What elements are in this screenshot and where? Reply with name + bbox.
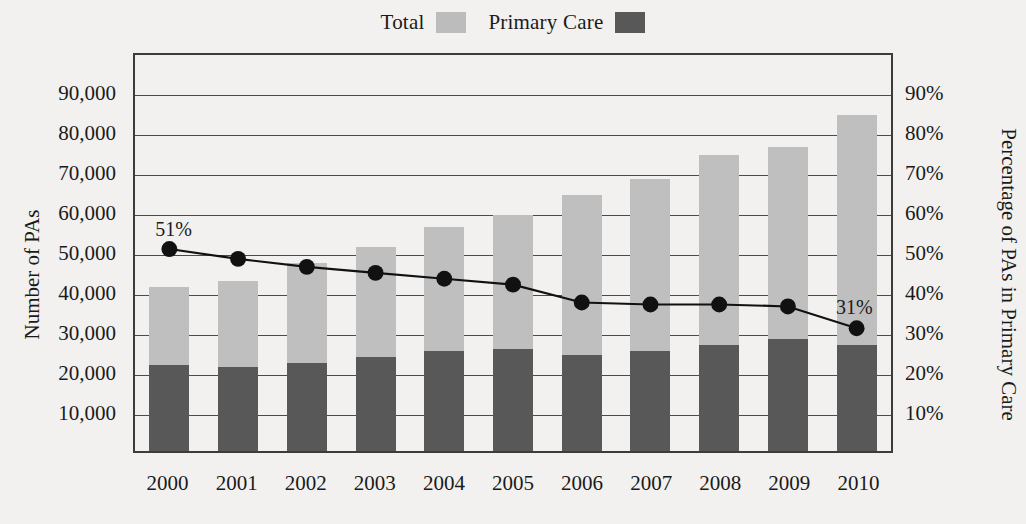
x-axis-tick-label: 2002 xyxy=(285,471,327,496)
x-axis-tick-label: 2004 xyxy=(423,471,465,496)
line-marker[interactable] xyxy=(230,251,246,267)
line-marker[interactable] xyxy=(436,271,452,287)
plot-area: 51%31% xyxy=(133,53,893,453)
line-marker[interactable] xyxy=(299,259,315,275)
x-axis-tick-label: 2000 xyxy=(147,471,189,496)
line-series-layer xyxy=(135,55,891,451)
chart-root: Total Primary Care Number of PAs Percent… xyxy=(0,0,1026,524)
line-marker[interactable] xyxy=(161,241,177,257)
line-marker[interactable] xyxy=(368,265,384,281)
line-marker[interactable] xyxy=(505,277,521,293)
x-axis-tick-label: 2010 xyxy=(837,471,879,496)
line-marker[interactable] xyxy=(849,320,865,336)
point-value-label: 31% xyxy=(836,296,873,319)
line-marker[interactable] xyxy=(780,299,796,315)
line-marker[interactable] xyxy=(711,297,727,313)
x-axis-tick-label: 2006 xyxy=(561,471,603,496)
line-marker[interactable] xyxy=(574,295,590,311)
x-axis-tick-label: 2003 xyxy=(354,471,396,496)
x-axis-tick-label: 2009 xyxy=(768,471,810,496)
point-value-label: 51% xyxy=(155,218,192,241)
x-axis-tick-label: 2007 xyxy=(630,471,672,496)
x-axis-tick-label: 2008 xyxy=(699,471,741,496)
line-marker[interactable] xyxy=(642,297,658,313)
x-axis-tick-label: 2001 xyxy=(216,471,258,496)
x-axis-tick-label: 2005 xyxy=(492,471,534,496)
